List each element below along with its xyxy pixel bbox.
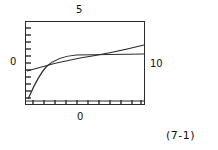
axis-label-left: 0: [10, 56, 16, 67]
axis-label-right: 10: [150, 58, 163, 69]
axis-label-bottom: 0: [77, 111, 83, 122]
figure-panel: 5 0 10 0 (7-1): [0, 0, 218, 150]
figure-caption: (7-1): [166, 129, 195, 142]
plot-frame: [25, 21, 145, 105]
axis-label-top: 5: [76, 4, 82, 15]
